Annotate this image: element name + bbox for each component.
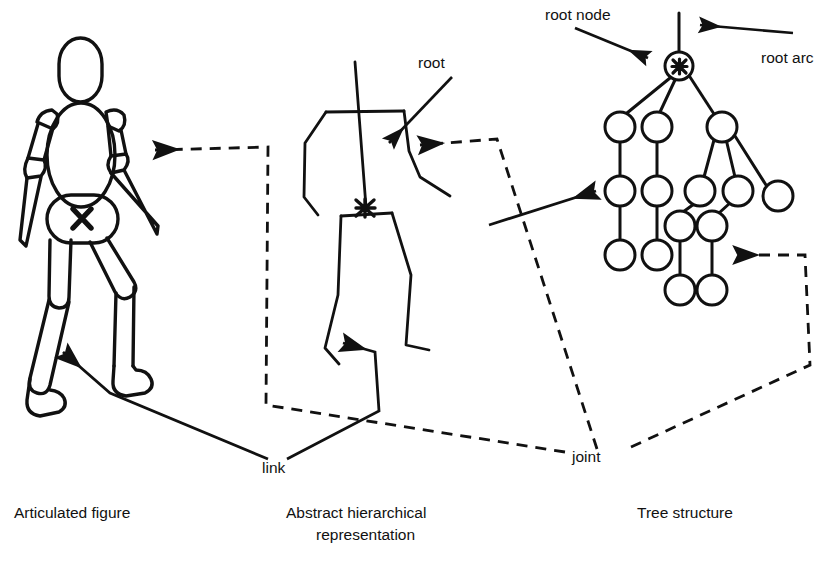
diagram-canvas: root root node root arc link joint Artic… <box>0 0 840 570</box>
caption-articulated-figure: Articulated figure <box>14 504 130 521</box>
tree-node <box>605 176 635 206</box>
abstract-root-marker <box>356 199 375 217</box>
tree-root-marker <box>672 59 687 74</box>
tree-node <box>665 211 695 241</box>
label-link: link <box>262 459 286 476</box>
tree-node <box>605 240 635 270</box>
label-root: root <box>418 54 445 71</box>
tree-node <box>642 240 672 270</box>
tree-node <box>605 112 635 142</box>
caption-abstract-line2: representation <box>316 526 415 543</box>
tree-node <box>697 275 727 305</box>
articulated-figure-hierarchy-diagram: root root node root arc link joint Artic… <box>0 0 840 570</box>
tree-node <box>697 211 727 241</box>
tree-node <box>707 112 737 142</box>
abstract-shoulder-line <box>326 111 404 112</box>
label-root-node: root node <box>545 6 611 23</box>
label-root-arc: root arc <box>761 49 814 66</box>
caption-abstract-line1: Abstract hierarchical <box>286 504 426 521</box>
label-joint: joint <box>571 448 601 465</box>
tree-node <box>665 275 695 305</box>
tree-node <box>685 176 715 206</box>
tree-node <box>642 176 672 206</box>
tree-node <box>763 181 793 211</box>
caption-tree-structure: Tree structure <box>637 504 733 521</box>
tree-node <box>723 176 753 206</box>
tree-node <box>642 112 672 142</box>
